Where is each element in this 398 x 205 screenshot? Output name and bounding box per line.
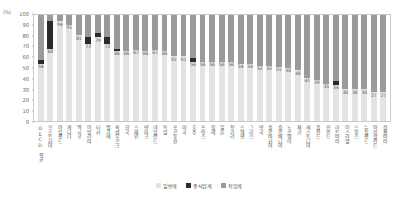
bar-column[interactable]: 94	[55, 15, 65, 121]
bar-value-label: 56	[190, 63, 195, 68]
bar-value-label: 66	[162, 52, 167, 57]
x-axis-label-cell: 핀란드	[322, 123, 332, 175]
bar-column[interactable]: 56	[188, 15, 198, 121]
bar-column[interactable]: 79	[93, 15, 103, 121]
x-axis-category-label: 슬로바키아	[267, 125, 272, 148]
bar-column[interactable]: 51	[274, 15, 284, 121]
bar-column[interactable]: 30	[341, 15, 351, 121]
bar-segment-other	[247, 15, 253, 64]
x-axis-label-cell: 터키	[92, 123, 102, 175]
legend-item[interactable]: 직업계	[221, 182, 242, 189]
x-axis-label-cell: 오스트리아	[45, 123, 55, 175]
bar-column[interactable]: 39	[312, 15, 322, 121]
bar-stack	[342, 15, 348, 121]
y-axis-unit-label: (%)	[3, 9, 11, 15]
bar-segment-general	[190, 62, 196, 121]
bar-segment-general	[295, 70, 301, 121]
legend-item[interactable]: 중식업계	[186, 182, 212, 189]
bar-column[interactable]: 27	[369, 15, 379, 121]
bar-column[interactable]: 48	[293, 15, 303, 121]
bar-segment-other	[171, 15, 177, 56]
bar-column[interactable]: 56	[198, 15, 208, 121]
x-axis-category-label: 뉴질랜드	[362, 125, 367, 143]
x-axis-label-cell: 일본	[217, 123, 227, 175]
x-axis-category-label: 이스라엘	[343, 125, 348, 143]
bar-column[interactable]: 66	[160, 15, 170, 121]
x-axis-category-label: 벨기에	[104, 125, 109, 139]
bar-group: 5468949181737973666667666766616156565656…	[34, 15, 390, 121]
bar-segment-general	[238, 64, 244, 121]
bar-segment-general	[76, 35, 82, 121]
bar-column[interactable]: 66	[112, 15, 122, 121]
bar-column[interactable]: 73	[103, 15, 113, 121]
bar-column[interactable]: 66	[141, 15, 151, 121]
x-axis-label-cell: 독일	[159, 123, 169, 175]
x-axis-category-label: 스페인	[133, 125, 138, 139]
y-axis-tick-label: 90	[22, 22, 29, 28]
bar-segment-other	[95, 15, 101, 33]
bar-column[interactable]: 73	[84, 15, 94, 121]
y-axis-tick-label: 60	[22, 54, 29, 60]
x-axis-category-label: 프랑스	[200, 125, 205, 139]
x-axis-category-label: 미국	[181, 125, 186, 134]
bar-stack	[190, 15, 196, 121]
x-axis-category-label: OECD 평균	[37, 125, 42, 162]
bar-column[interactable]: 54	[245, 15, 255, 121]
bar-segment-other	[219, 15, 225, 62]
x-axis-label-cell: 캐나다	[64, 123, 74, 175]
bar-stack	[352, 15, 358, 121]
bar-column[interactable]: 30	[360, 15, 370, 121]
bar-column[interactable]: 50	[283, 15, 293, 121]
bar-column[interactable]: 52	[264, 15, 274, 121]
bar-column[interactable]: 67	[150, 15, 160, 121]
bar-value-label: 66	[114, 52, 119, 57]
y-axis-tick-label: 100	[19, 11, 29, 17]
bar-stack	[314, 15, 320, 121]
bar-stack	[76, 15, 82, 121]
bar-column[interactable]: 81	[74, 15, 84, 121]
bar-segment-other	[162, 15, 168, 51]
x-axis-category-label: 슬로베니아	[276, 125, 281, 148]
bar-column[interactable]: 61	[169, 15, 179, 121]
bar-segment-other	[200, 15, 206, 62]
bar-segment-general	[228, 62, 234, 121]
bar-column[interactable]: 54	[36, 15, 46, 121]
bar-column[interactable]: 34	[331, 15, 341, 121]
bar-column[interactable]: 66	[122, 15, 132, 121]
bar-column[interactable]: 35	[321, 15, 331, 121]
x-axis-category-label: 터키	[95, 125, 100, 134]
x-axis-label-cell: 포르투갈	[169, 123, 179, 175]
bar-stack	[95, 15, 101, 121]
y-axis-tick-label: 50	[22, 65, 29, 71]
bar-column[interactable]: 56	[217, 15, 227, 121]
bar-segment-general	[123, 51, 129, 121]
bar-column[interactable]: 91	[65, 15, 75, 121]
bar-segment-other	[152, 15, 158, 50]
bar-segment-other	[323, 15, 329, 84]
bar-column[interactable]: 41	[302, 15, 312, 121]
bar-segment-general	[247, 64, 253, 121]
x-axis-label-cell: 슬로베니아	[274, 123, 284, 175]
legend-item[interactable]: 일반계	[156, 182, 177, 189]
bar-column[interactable]: 27	[379, 15, 389, 121]
bar-value-label: 91	[67, 26, 72, 31]
x-axis-label-cell: 벨기에	[102, 123, 112, 175]
bar-column[interactable]: 56	[207, 15, 217, 121]
bar-column[interactable]: 54	[236, 15, 246, 121]
bar-column[interactable]: 30	[350, 15, 360, 121]
bar-stack	[209, 15, 215, 121]
bar-column[interactable]: 52	[255, 15, 265, 121]
bar-column[interactable]: 68	[46, 15, 56, 121]
x-axis-category-label: 칠레	[209, 125, 214, 134]
bar-value-label: 41	[304, 79, 309, 84]
y-axis-tick-label: 20	[22, 97, 29, 103]
bar-value-label: 30	[352, 91, 357, 96]
bar-value-label: 66	[143, 52, 148, 57]
bar-column[interactable]: 67	[131, 15, 141, 121]
bar-segment-general	[266, 66, 272, 121]
x-axis-label-cell: 한국	[121, 123, 131, 175]
bar-column[interactable]: 61	[179, 15, 189, 121]
bar-column[interactable]: 56	[226, 15, 236, 121]
bar-segment-general	[200, 62, 206, 121]
bar-segment-general	[114, 51, 120, 121]
